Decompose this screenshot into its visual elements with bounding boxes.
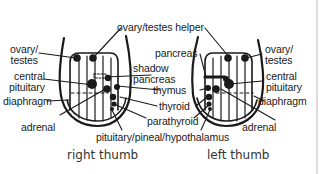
label-line: testes [265,55,293,66]
label-line: testes [10,55,38,66]
caption-left-thumb: left thumb [207,148,269,162]
caption-right-thumb: right thumb [67,148,138,162]
label-right-ovary-testes: ovary/ testes [10,44,38,66]
thumb-reflexology-diagram: ovary/ testes central pituitary diaphrag… [0,0,324,174]
label-left-ovary-testes: ovary/ testes [265,44,293,66]
label-left-adrenal: adrenal [242,122,276,133]
label-thyroid: thyroid [159,101,190,112]
label-thymus: thymus [153,85,186,96]
label-left-pancreas: pancreas [155,48,197,59]
label-pituitary-pineal-hypothalamus: pituitary/pineal/hypothalamus [96,132,229,143]
label-parathyroid: parathyroid [147,116,198,127]
label-ovary-testes-helper: ovary/testes helper [117,22,204,33]
label-shadow-pancreas: shadow pancreas [133,63,175,85]
right-thumb-points [73,54,120,111]
label-right-adrenal: adrenal [21,122,55,133]
label-right-central-pituitary: central pituitary [9,71,45,93]
label-left-diaphragm: diaphragm [258,96,307,107]
label-line: pituitary [266,82,302,93]
label-line: pituitary [9,82,45,93]
page-edge-divider [316,0,318,174]
label-right-diaphragm: diaphragm [3,96,52,107]
label-left-central-pituitary: central pituitary [266,71,302,93]
